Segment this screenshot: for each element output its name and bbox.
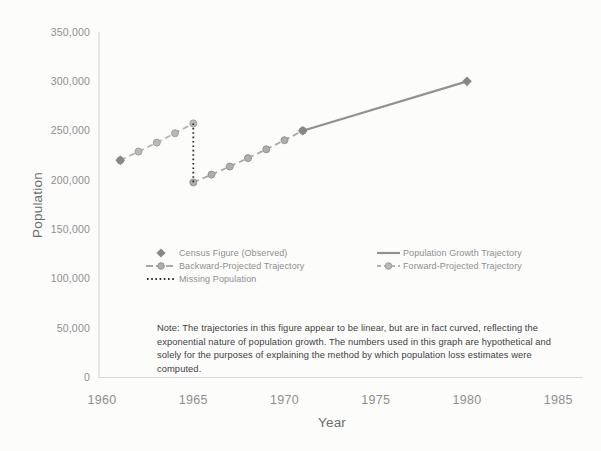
dashed-line-circle-marker-icon [146, 261, 176, 271]
legend-item-growth: Population Growth Trajectory [377, 246, 522, 259]
legend-label-census: Census Figure (Observed) [179, 248, 287, 258]
data-point-circle-backward [226, 163, 233, 170]
legend-item-backward: Backward-Projected Trajectory [146, 259, 304, 272]
legend-item-census: Census Figure (Observed) [146, 246, 304, 259]
chart-canvas [0, 0, 601, 451]
x-tick-label: 1980 [437, 393, 497, 407]
legend-column-left: Census Figure (Observed) Backward-Projec… [146, 246, 304, 285]
x-tick-label: 1985 [528, 393, 588, 407]
legend-item-missing: Missing Population [146, 272, 304, 285]
legend-column-right: Population Growth Trajectory Forward-Pro… [377, 246, 522, 272]
legend-label-growth: Population Growth Trajectory [403, 248, 522, 258]
y-tick-label: 300,000 [0, 75, 90, 87]
y-tick-label: 350,000 [0, 26, 90, 38]
legend-label-missing: Missing Population [179, 274, 256, 284]
diamond-marker-icon [146, 248, 176, 258]
data-point-circle-backward [208, 171, 215, 178]
data-point-circle-forward [135, 148, 142, 155]
x-tick-label: 1960 [72, 393, 132, 407]
data-point-circle-forward [172, 130, 179, 137]
x-axis-title: Year [232, 415, 432, 430]
note-text: Note: The trajectories in this figure ap… [157, 322, 559, 376]
legend-label-backward: Backward-Projected Trajectory [179, 261, 304, 271]
legend-item-forward: Forward-Projected Trajectory [377, 259, 522, 272]
data-point-circle-backward [263, 146, 270, 153]
y-tick-label: 100,000 [0, 272, 90, 284]
y-tick-label: 0 [0, 371, 90, 383]
data-point-circle-backward [245, 155, 252, 162]
y-tick-label: 200,000 [0, 174, 90, 186]
y-axis-title: Population [30, 129, 48, 281]
data-point-circle-backward [190, 179, 197, 186]
x-tick-label: 1970 [255, 393, 315, 407]
series-line-growth [303, 81, 467, 130]
data-point-diamond-census [115, 156, 125, 166]
legend-label-forward: Forward-Projected Trajectory [403, 261, 522, 271]
x-tick-label: 1965 [163, 393, 223, 407]
data-point-circle-backward [281, 137, 288, 144]
data-point-diamond-census [298, 126, 308, 136]
dotted-line-marker-icon [146, 274, 176, 284]
data-point-diamond-census [462, 77, 472, 87]
population-projection-chart: Population Year 050,000100,000150,000200… [0, 0, 601, 451]
y-tick-label: 250,000 [0, 124, 90, 136]
data-point-circle-forward [153, 139, 160, 146]
dashed-line-circle-marker-icon [377, 261, 400, 271]
y-tick-label: 50,000 [0, 322, 90, 334]
solid-line-marker-icon [377, 248, 400, 258]
y-tick-label: 150,000 [0, 223, 90, 235]
x-tick-label: 1975 [346, 393, 406, 407]
